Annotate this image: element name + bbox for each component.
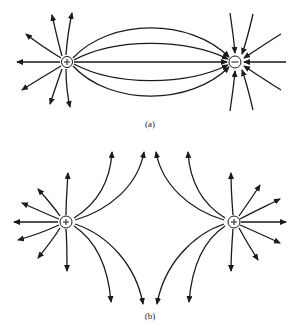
panel-a-label: (a) [145, 119, 155, 129]
left-positive-charge-lines [14, 152, 144, 304]
dipole-connecting-lines [73, 28, 229, 96]
panel-b [14, 152, 286, 304]
negative-charge-a [229, 56, 241, 68]
positive-charge-a [62, 57, 73, 68]
right-positive-charge-b [228, 216, 240, 228]
right-positive-charge-lines [156, 152, 286, 304]
left-positive-charge-b [60, 216, 72, 228]
field-lines-diagram [0, 0, 298, 330]
panel-b-label: (b) [145, 311, 156, 321]
panel-a [17, 13, 286, 111]
